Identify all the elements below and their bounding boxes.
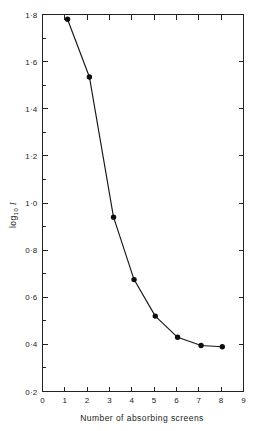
svg-text:log10I: log10I [8, 201, 19, 228]
y-tick-label: 1·8 [25, 11, 38, 20]
data-point [153, 313, 158, 318]
chart-ticks [43, 15, 244, 392]
x-axis-title: Number of absorbing screens [80, 413, 204, 423]
x-tick-label: 3 [107, 396, 112, 405]
x-tick-label: 7 [197, 396, 202, 405]
data-point [65, 17, 70, 22]
y-tick-label: 0·8 [25, 246, 38, 255]
y-tick-label: 1·6 [25, 58, 38, 67]
data-point [87, 74, 92, 79]
data-point [131, 277, 136, 282]
x-tick-label: 2 [85, 396, 90, 405]
y-tick-label: 0·4 [25, 340, 38, 349]
chart-data-markers [65, 17, 225, 350]
chart-tick-labels: 01234567890·20·40·60·81·01·21·41·61·8 [25, 11, 246, 405]
series-line [68, 19, 223, 347]
y-tick-label: 0·6 [25, 293, 38, 302]
x-tick-label: 5 [152, 396, 157, 405]
plot-frame [43, 15, 244, 392]
y-tick-label: 0·2 [25, 388, 38, 397]
chart-axes [43, 15, 244, 392]
data-point [175, 335, 180, 340]
y-axis-title-subscript: 10 [13, 208, 19, 216]
x-tick-label: 8 [219, 396, 224, 405]
x-tick-label: 0 [40, 396, 45, 405]
data-point [111, 214, 116, 219]
data-point [220, 344, 225, 349]
chart-figure: 01234567890·20·40·60·81·01·21·41·61·8 Nu… [0, 0, 262, 431]
chart-series [68, 19, 223, 347]
y-tick-label: 1·0 [25, 199, 38, 208]
y-axis-title-variable: I [8, 201, 18, 206]
y-tick-label: 1·2 [25, 152, 38, 161]
data-point [198, 343, 203, 348]
x-tick-label: 1 [63, 396, 68, 405]
y-axis-title-main: log [8, 215, 18, 228]
x-tick-label: 9 [241, 396, 246, 405]
x-tick-label: 6 [174, 396, 179, 405]
y-tick-label: 1·4 [25, 105, 38, 114]
y-axis-title: log10I [8, 201, 19, 228]
x-tick-label: 4 [130, 396, 135, 405]
line-chart: 01234567890·20·40·60·81·01·21·41·61·8 Nu… [0, 0, 262, 431]
